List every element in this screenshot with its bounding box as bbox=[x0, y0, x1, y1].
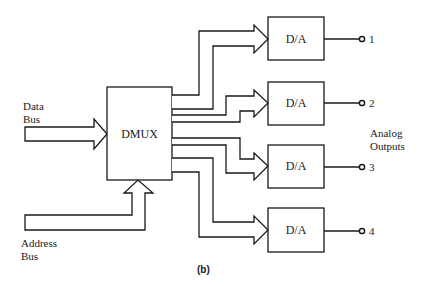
analog-outputs-label-line1: Analog bbox=[370, 127, 405, 140]
address-bus-label: Address Bus bbox=[21, 237, 57, 263]
analog-outputs-label: Analog Outputs bbox=[370, 127, 405, 153]
analog-outputs-label-line2: Outputs bbox=[370, 140, 405, 153]
address-bus-arrow bbox=[25, 180, 153, 230]
da-label-4: D/A bbox=[268, 223, 324, 238]
data-bus-label: Data Bus bbox=[23, 100, 44, 126]
output-terminal-4 bbox=[359, 228, 364, 233]
output-number-2: 2 bbox=[369, 97, 375, 110]
output-terminal-3 bbox=[359, 164, 364, 169]
output-number-3: 3 bbox=[369, 161, 375, 174]
output-number-1: 1 bbox=[369, 33, 375, 46]
address-bus-label-line2: Bus bbox=[21, 250, 57, 263]
output-number-4: 4 bbox=[369, 225, 375, 238]
da-label-2: D/A bbox=[268, 96, 324, 111]
data-bus-label-line2: Bus bbox=[23, 113, 44, 126]
address-bus-label-line1: Address bbox=[21, 237, 57, 250]
da-label-1: D/A bbox=[268, 32, 324, 47]
diagram-canvas bbox=[0, 0, 427, 286]
output-terminal-1 bbox=[359, 36, 364, 41]
figure-caption: (b) bbox=[197, 264, 210, 275]
data-bus-label-line1: Data bbox=[23, 100, 44, 113]
da-label-3: D/A bbox=[268, 159, 324, 174]
output-terminal-2 bbox=[359, 100, 364, 105]
dmux-label: DMUX bbox=[107, 127, 172, 142]
